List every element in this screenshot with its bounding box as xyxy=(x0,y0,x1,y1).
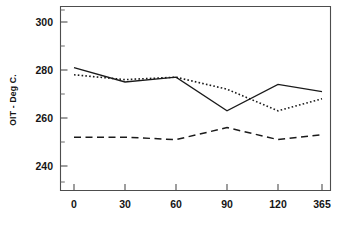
x-tick-label-30: 30 xyxy=(119,198,131,210)
x-tick-label-120: 120 xyxy=(269,198,287,210)
x-axis-ticks xyxy=(74,184,322,191)
x-axis-tick-labels: 0 30 60 90 120 365 xyxy=(71,198,331,210)
x-tick-label-90: 90 xyxy=(221,198,233,210)
plot-border xyxy=(61,7,331,191)
x-tick-label-365: 365 xyxy=(313,198,331,210)
y-tick-label-280: 280 xyxy=(35,64,53,76)
data-series-group xyxy=(74,68,322,140)
y-axis-label-group: OIT - Deg C. xyxy=(8,74,18,126)
series-line-dashed xyxy=(74,128,322,140)
y-axis-label: OIT - Deg C. xyxy=(8,74,18,126)
series-line-dotted xyxy=(74,75,322,111)
line-chart: 300 280 260 240 0 30 60 90 120 365 OIT -… xyxy=(0,0,353,234)
y-tick-label-240: 240 xyxy=(35,160,53,172)
chart-figure: 300 280 260 240 0 30 60 90 120 365 OIT -… xyxy=(0,0,353,234)
plot-frame xyxy=(61,7,331,191)
x-tick-label-0: 0 xyxy=(71,198,77,210)
series-line-solid xyxy=(74,68,322,111)
y-axis-tick-labels: 300 280 260 240 xyxy=(35,16,53,172)
y-axis-minor-ticks xyxy=(61,10,65,182)
y-tick-label-260: 260 xyxy=(35,112,53,124)
y-tick-label-300: 300 xyxy=(35,16,53,28)
x-tick-label-60: 60 xyxy=(170,198,182,210)
